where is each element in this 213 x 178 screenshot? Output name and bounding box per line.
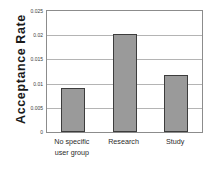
x-axis-tick-label-line: No specific (54, 137, 89, 146)
x-axis-tick-label-line: Study (166, 137, 184, 146)
y-axis-tick-label: 0.02 (2, 32, 46, 38)
y-axis-tick-label: 0 (2, 129, 46, 135)
x-axis-tick-label-line: Research (108, 137, 139, 146)
bar (61, 88, 85, 133)
bar-chart: Acceptance Rate 00.0050.010.0150.020.025… (0, 0, 213, 178)
y-axis-tick-labels: 00.0050.010.0150.020.025 (0, 10, 46, 133)
x-axis-tick-label: No specificuser group (46, 137, 98, 158)
plot-area (46, 10, 203, 133)
y-axis-tick-label: 0.005 (2, 105, 46, 111)
x-axis-tick-label-line: user group (46, 148, 98, 159)
x-axis-tick-labels: No specificuser groupResearchStudy (46, 137, 203, 177)
y-axis-tick-label: 0.01 (2, 81, 46, 87)
x-axis-tick-label: Study (149, 137, 201, 148)
x-axis-tick-label: Research (98, 137, 150, 148)
y-axis-tick-label: 0.015 (2, 56, 46, 62)
bar (113, 34, 137, 132)
bar (164, 75, 188, 132)
y-axis-tick-label: 0.025 (2, 8, 46, 14)
